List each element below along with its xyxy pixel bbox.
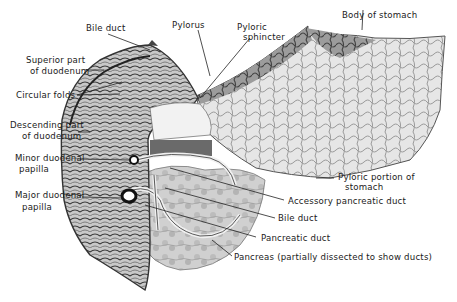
- major-papilla-marker: [122, 190, 136, 202]
- label-superior-part-1: Superior part: [26, 55, 85, 65]
- label-pyloric-portion-2: stomach: [345, 182, 383, 192]
- anatomy-figure: Bile duct Pylorus Pyloric sphincter Body…: [0, 0, 457, 302]
- label-pyloric-portion-1: Pyloric portion of: [338, 172, 415, 182]
- label-superior-part-2: of duodenum: [30, 66, 89, 76]
- label-accessory-pancreatic-duct: Accessory pancreatic duct: [288, 196, 406, 206]
- minor-papilla-marker: [130, 156, 138, 164]
- label-descending-part-1: Descending part: [10, 120, 84, 130]
- label-major-papilla-2: papilla: [22, 202, 52, 212]
- label-major-papilla-1: Major duodenal: [15, 190, 84, 200]
- label-bile-duct-lower: Bile duct: [278, 213, 318, 223]
- label-descending-part-2: of duodenum: [22, 131, 81, 141]
- stomach-body: [196, 26, 445, 178]
- label-pylorus: Pylorus: [172, 20, 205, 30]
- label-body-of-stomach: Body of stomach: [342, 10, 417, 20]
- label-minor-papilla-1: Minor duodenal: [15, 153, 85, 163]
- label-circular-folds: Circular folds: [16, 90, 75, 100]
- label-bile-duct-top: Bile duct: [86, 23, 126, 33]
- label-minor-papilla-2: papilla: [19, 164, 49, 174]
- label-pancreas: Pancreas (partially dissected to show du…: [234, 252, 432, 262]
- label-pancreatic-duct: Pancreatic duct: [261, 233, 330, 243]
- opened-lumen: [150, 103, 212, 156]
- label-pyloric-sphincter-1: Pyloric: [237, 22, 267, 32]
- label-pyloric-sphincter-2: sphincter: [243, 32, 285, 42]
